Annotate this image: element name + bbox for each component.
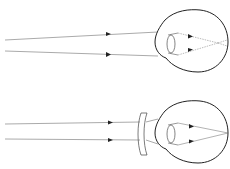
crystalline-lens [167, 35, 175, 53]
eyeball-outline [155, 101, 228, 163]
arrow-icon [188, 34, 193, 39]
incoming-ray-lower [5, 139, 140, 140]
optics-diagram [0, 0, 230, 169]
eyeball-outline [155, 10, 228, 72]
concave-lens [138, 113, 147, 155]
incoming-ray-upper [5, 122, 140, 124]
arrow-icon [108, 138, 113, 142]
uncorrected-myopic-eye [5, 10, 228, 72]
arrow-icon [106, 52, 111, 57]
arrow-icon [189, 124, 194, 129]
crystalline-lens [167, 125, 175, 143]
arrow-icon [106, 32, 111, 36]
diagram-canvas: Myopia and its correction with a concave… [0, 0, 230, 169]
arrow-icon [108, 121, 113, 125]
incoming-ray-upper [5, 32, 158, 40]
incoming-ray-lower [5, 51, 158, 56]
corrected-with-concave-lens [5, 101, 228, 163]
